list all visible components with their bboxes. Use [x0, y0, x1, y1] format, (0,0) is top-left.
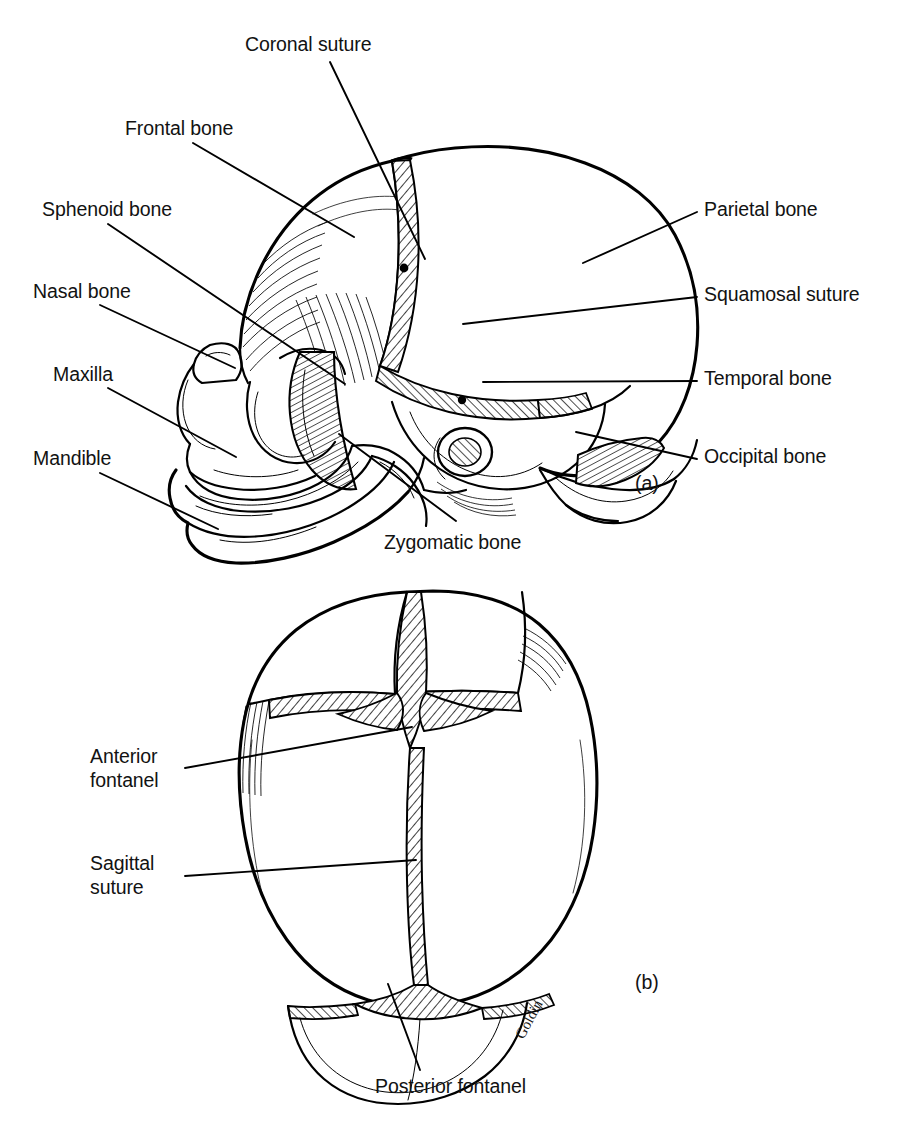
leader-sphenoid-bone	[108, 224, 345, 384]
label-sagittal-suture-line2: suture	[90, 876, 144, 899]
anatomical-figure: Coronal suture Frontal bone Sphenoid bon…	[0, 0, 911, 1122]
leader-nasal-bone	[100, 305, 235, 368]
label-occipital-bone: Occipital bone	[704, 445, 826, 468]
leader-temporal-bone	[483, 381, 697, 382]
label-parietal-bone: Parietal bone	[704, 198, 818, 221]
label-anterior-fontanel-line2: fontanel	[90, 769, 159, 792]
label-temporal-bone: Temporal bone	[704, 367, 832, 390]
label-zygomatic-bone: Zygomatic bone	[384, 531, 521, 554]
label-nasal-bone: Nasal bone	[33, 280, 131, 303]
skull-illustration	[0, 0, 911, 1122]
leader-maxilla	[108, 388, 236, 457]
label-squamosal-suture: Squamosal suture	[704, 283, 860, 306]
leader-frontal-bone	[193, 143, 354, 237]
leader-parietal-bone	[583, 212, 697, 263]
panel-a-drawing	[169, 147, 697, 564]
label-sphenoid-bone: Sphenoid bone	[42, 198, 172, 221]
panel-tag-b: (b)	[635, 971, 659, 994]
label-mandible: Mandible	[33, 447, 111, 470]
label-posterior-fontanel: Posterior fontanel	[375, 1075, 526, 1098]
leader-squamosal-suture	[463, 297, 697, 324]
label-sagittal-suture-line1: Sagittal	[90, 852, 154, 875]
label-coronal-suture: Coronal suture	[245, 33, 372, 56]
leader-mandible	[100, 473, 218, 529]
label-frontal-bone: Frontal bone	[125, 117, 233, 140]
leader-sagittal-suture	[185, 860, 416, 876]
leader-anterior-fontanel	[185, 727, 412, 768]
label-anterior-fontanel-line1: Anterior	[90, 745, 157, 768]
label-maxilla: Maxilla	[53, 363, 113, 386]
panel-b-drawing	[239, 591, 597, 1104]
panel-tag-a: (a)	[635, 472, 659, 495]
